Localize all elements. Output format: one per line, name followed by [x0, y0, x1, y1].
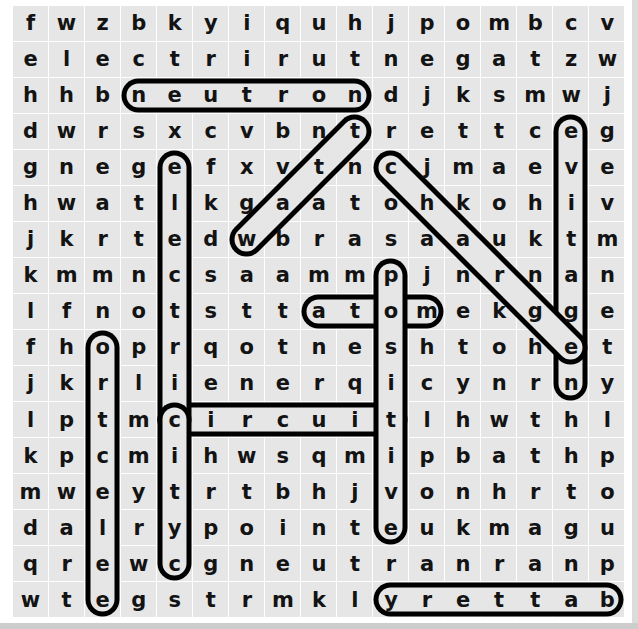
grid-cell[interactable]: m: [301, 258, 336, 293]
grid-cell[interactable]: q: [301, 439, 336, 474]
grid-cell[interactable]: m: [85, 258, 120, 293]
grid-cell[interactable]: t: [157, 42, 192, 77]
grid-cell[interactable]: n: [301, 114, 336, 149]
grid-cell[interactable]: a: [265, 186, 300, 221]
grid-cell[interactable]: e: [85, 42, 120, 77]
grid-cell[interactable]: j: [590, 78, 625, 113]
grid-cell[interactable]: t: [518, 583, 553, 618]
grid-cell[interactable]: w: [49, 186, 84, 221]
grid-cell[interactable]: e: [337, 330, 372, 365]
grid-cell[interactable]: a: [482, 439, 517, 474]
grid-cell[interactable]: t: [229, 78, 264, 113]
grid-cell[interactable]: i: [157, 366, 192, 401]
grid-cell[interactable]: b: [446, 439, 481, 474]
grid-cell[interactable]: g: [193, 547, 228, 582]
grid-cell[interactable]: n: [301, 330, 336, 365]
grid-cell[interactable]: h: [446, 403, 481, 438]
grid-cell[interactable]: z: [554, 42, 589, 77]
grid-cell[interactable]: m: [49, 258, 84, 293]
grid-cell[interactable]: l: [121, 366, 156, 401]
grid-cell[interactable]: t: [121, 186, 156, 221]
grid-cell[interactable]: c: [410, 366, 445, 401]
grid-cell[interactable]: w: [13, 583, 48, 618]
grid-cell[interactable]: x: [157, 114, 192, 149]
grid-cell[interactable]: k: [49, 366, 84, 401]
grid-cell[interactable]: v: [229, 114, 264, 149]
grid-cell[interactable]: t: [193, 583, 228, 618]
grid-cell[interactable]: a: [301, 186, 336, 221]
grid-cell[interactable]: n: [446, 475, 481, 510]
grid-cell[interactable]: h: [13, 78, 48, 113]
grid-cell[interactable]: l: [13, 403, 48, 438]
grid-cell[interactable]: a: [482, 150, 517, 185]
grid-cell[interactable]: l: [337, 583, 372, 618]
grid-cell[interactable]: r: [518, 475, 553, 510]
grid-cell[interactable]: l: [85, 511, 120, 546]
grid-cell[interactable]: i: [373, 366, 408, 401]
grid-cell[interactable]: c: [85, 439, 120, 474]
grid-cell[interactable]: t: [85, 403, 120, 438]
grid-cell[interactable]: i: [229, 42, 264, 77]
grid-cell[interactable]: r: [229, 583, 264, 618]
grid-cell[interactable]: s: [373, 222, 408, 257]
grid-cell[interactable]: e: [518, 150, 553, 185]
grid-cell[interactable]: r: [301, 366, 336, 401]
grid-cell[interactable]: n: [337, 150, 372, 185]
grid-cell[interactable]: t: [482, 114, 517, 149]
grid-cell[interactable]: p: [590, 439, 625, 474]
grid-cell[interactable]: t: [373, 403, 408, 438]
grid-cell[interactable]: f: [193, 150, 228, 185]
grid-cell[interactable]: h: [482, 475, 517, 510]
grid-cell[interactable]: k: [49, 222, 84, 257]
grid-cell[interactable]: f: [49, 294, 84, 329]
grid-cell[interactable]: e: [193, 366, 228, 401]
grid-cell[interactable]: m: [446, 150, 481, 185]
grid-cell[interactable]: u: [410, 511, 445, 546]
grid-cell[interactable]: j: [410, 258, 445, 293]
grid-cell[interactable]: b: [265, 114, 300, 149]
grid-cell[interactable]: w: [590, 42, 625, 77]
grid-cell[interactable]: n: [229, 366, 264, 401]
grid-cell[interactable]: n: [590, 258, 625, 293]
grid-cell[interactable]: o: [482, 186, 517, 221]
grid-cell[interactable]: v: [590, 6, 625, 41]
grid-cell[interactable]: k: [301, 583, 336, 618]
grid-cell[interactable]: t: [518, 439, 553, 474]
grid-cell[interactable]: j: [13, 366, 48, 401]
grid-cell[interactable]: u: [301, 42, 336, 77]
grid-cell[interactable]: t: [482, 583, 517, 618]
grid-cell[interactable]: m: [13, 475, 48, 510]
grid-cell[interactable]: c: [121, 42, 156, 77]
grid-cell[interactable]: t: [301, 150, 336, 185]
grid-cell[interactable]: r: [193, 42, 228, 77]
grid-cell[interactable]: g: [121, 583, 156, 618]
grid-cell[interactable]: b: [265, 475, 300, 510]
grid-cell[interactable]: d: [13, 511, 48, 546]
grid-cell[interactable]: w: [49, 114, 84, 149]
grid-cell[interactable]: a: [301, 294, 336, 329]
grid-cell[interactable]: i: [265, 511, 300, 546]
grid-cell[interactable]: k: [193, 186, 228, 221]
grid-cell[interactable]: s: [193, 294, 228, 329]
grid-cell[interactable]: e: [554, 330, 589, 365]
grid-cell[interactable]: n: [373, 42, 408, 77]
grid-cell[interactable]: o: [410, 475, 445, 510]
grid-cell[interactable]: n: [85, 294, 120, 329]
grid-cell[interactable]: y: [121, 475, 156, 510]
grid-cell[interactable]: s: [482, 78, 517, 113]
grid-cell[interactable]: n: [554, 366, 589, 401]
grid-cell[interactable]: d: [13, 114, 48, 149]
grid-cell[interactable]: e: [157, 150, 192, 185]
grid-cell[interactable]: y: [446, 366, 481, 401]
grid-cell[interactable]: i: [337, 403, 372, 438]
grid-cell[interactable]: g: [518, 294, 553, 329]
grid-cell[interactable]: t: [229, 294, 264, 329]
grid-cell[interactable]: s: [193, 258, 228, 293]
grid-cell[interactable]: w: [121, 547, 156, 582]
grid-cell[interactable]: e: [410, 42, 445, 77]
grid-cell[interactable]: p: [193, 511, 228, 546]
grid-cell[interactable]: r: [193, 475, 228, 510]
grid-cell[interactable]: s: [157, 583, 192, 618]
grid-cell[interactable]: e: [373, 511, 408, 546]
grid-cell[interactable]: t: [337, 42, 372, 77]
